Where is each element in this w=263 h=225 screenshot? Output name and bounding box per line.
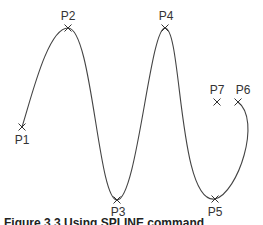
point-label-p7: P7 bbox=[210, 83, 225, 97]
point-marker-p7-x-icon bbox=[214, 99, 221, 106]
point-label-p2: P2 bbox=[61, 9, 76, 23]
spline-curve bbox=[22, 28, 248, 200]
point-marker-p4-x-icon bbox=[162, 25, 169, 32]
point-marker-p1-x-icon bbox=[19, 124, 26, 131]
point-marker-p3-x-icon bbox=[114, 197, 121, 204]
point-label-p5: P5 bbox=[208, 205, 223, 219]
spline-diagram: P1P2P3P4P5P6P7 bbox=[0, 0, 263, 225]
point-marker-p6-x-icon bbox=[235, 99, 242, 106]
figure-caption: Figure 3.3 Using SPLINE command bbox=[4, 216, 204, 225]
point-label-p1: P1 bbox=[15, 133, 30, 147]
point-label-p4: P4 bbox=[159, 9, 174, 23]
point-label-p6: P6 bbox=[236, 83, 251, 97]
